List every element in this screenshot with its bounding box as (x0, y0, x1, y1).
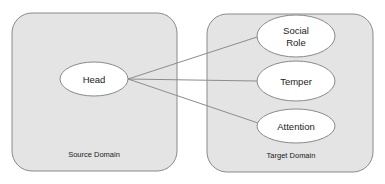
node-head: Head (60, 62, 128, 96)
node-head-label: Head (83, 74, 106, 85)
node-temper-label: Temper (280, 76, 312, 87)
source-domain-label: Source Domain (68, 150, 120, 159)
node-social-role-label-line1: Social (283, 25, 309, 36)
target-domain-label: Target Domain (267, 151, 316, 160)
node-social-role-label-line2: Role (286, 37, 306, 48)
node-temper: Temper (257, 61, 335, 101)
node-social-role: Social Role (257, 15, 335, 57)
node-attention: Attention (257, 109, 335, 143)
metaphor-mapping-diagram: Source Domain Target Domain Head Social … (0, 0, 385, 184)
node-attention-label: Attention (277, 121, 315, 132)
